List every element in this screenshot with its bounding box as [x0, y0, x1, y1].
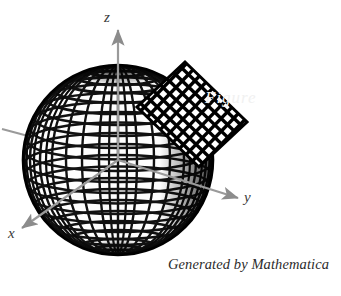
- figure-caption: Generated by Mathematica: [168, 256, 340, 273]
- background-watermark: Figure: [205, 88, 257, 108]
- x-axis-label: x: [8, 226, 15, 241]
- sphere-scene: [0, 0, 341, 296]
- mathematica-figure: z y x Figure Generated by Mathematica: [0, 0, 341, 296]
- y-axis-label: y: [244, 190, 251, 205]
- z-axis-label: z: [104, 10, 110, 25]
